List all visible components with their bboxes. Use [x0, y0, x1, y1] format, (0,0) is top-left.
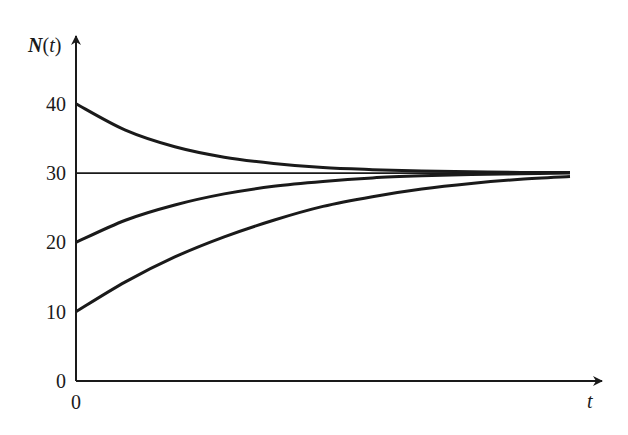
y-axis-title: N(t) — [27, 34, 61, 57]
y-tick-label: 40 — [46, 93, 66, 115]
x-axis-title: t — [587, 390, 593, 412]
y-tick-label: 20 — [46, 231, 66, 253]
y-tick-label: 30 — [46, 162, 66, 184]
chart: N(t) t 010203040 0 — [0, 0, 628, 435]
x-tick-labels: 0 — [71, 391, 81, 413]
series-curves — [76, 104, 570, 312]
y-tick-label: 0 — [56, 370, 66, 392]
series-curve — [76, 104, 570, 173]
y-tick-labels: 010203040 — [46, 93, 66, 392]
y-tick-label: 10 — [46, 301, 66, 323]
series-curve — [76, 177, 570, 312]
x-tick-label: 0 — [71, 391, 81, 413]
